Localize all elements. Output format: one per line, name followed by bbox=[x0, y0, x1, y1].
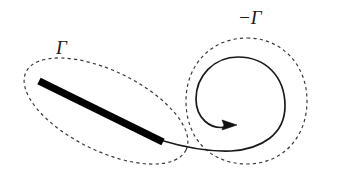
figure-container: Γ −Γ bbox=[0, 0, 337, 173]
label-gamma: Γ bbox=[56, 38, 67, 57]
contour-diagram-canvas bbox=[0, 0, 337, 173]
label-minus-gamma: −Γ bbox=[238, 8, 262, 27]
